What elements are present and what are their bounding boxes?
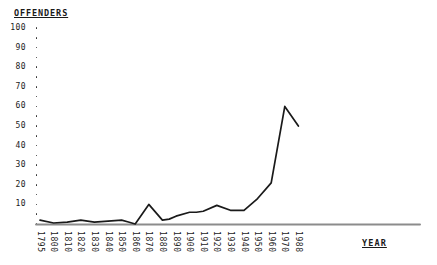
plot-area <box>0 0 437 265</box>
offenders-by-year-line-chart: OFFENDERS YEAR 100908070605040302010 179… <box>0 0 437 265</box>
offenders-data-line <box>40 106 298 224</box>
